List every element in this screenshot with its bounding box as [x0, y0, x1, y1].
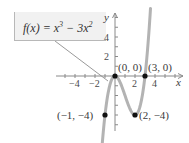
point-label-origin: (0, 0)	[118, 62, 142, 73]
data-point	[112, 73, 117, 78]
x-tick-label-4: 4	[152, 79, 157, 89]
leader-line	[55, 41, 108, 81]
data-point	[102, 112, 107, 117]
y-axis-label: y	[104, 12, 109, 23]
y-tick-label-2: 2	[104, 52, 109, 62]
x-tick-label-neg4: −4	[69, 79, 80, 89]
data-point	[142, 73, 147, 78]
function-label-box: f(x) = x3 − 3x2	[14, 12, 106, 41]
function-label: f(x) = x3 − 3x2	[23, 20, 93, 36]
point-label-2-neg4: (2, −4)	[139, 110, 169, 121]
x-tick-label-2: 2	[132, 79, 137, 89]
x-tick-label-neg2: −2	[89, 79, 100, 89]
y-tick-label-4: 4	[104, 33, 109, 43]
data-point	[132, 112, 137, 117]
x-axis-label: x	[176, 77, 181, 88]
point-label-neg1-neg4: (−1, −4)	[57, 110, 93, 121]
point-label-3-0: (3, 0)	[148, 62, 172, 73]
